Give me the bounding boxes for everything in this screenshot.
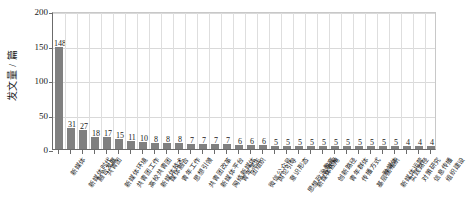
x-tick-mark: [118, 150, 119, 154]
x-gridline: [221, 13, 222, 149]
x-tick-mark: [178, 150, 179, 154]
x-tick-mark: [310, 150, 311, 154]
bar-value-label: 8: [154, 135, 158, 144]
x-gridline: [125, 13, 126, 149]
x-gridline: [89, 13, 90, 149]
y-tick-label: 150: [22, 42, 48, 52]
bar-value-label: 8: [166, 135, 170, 144]
x-gridline: [305, 13, 306, 149]
x-tick-mark: [82, 150, 83, 154]
x-tick-mark: [334, 150, 335, 154]
x-tick-mark: [346, 150, 347, 154]
x-tick-mark: [166, 150, 167, 154]
x-gridline: [413, 13, 414, 149]
x-gridline: [245, 13, 246, 149]
bar: [139, 142, 147, 149]
x-gridline: [101, 13, 102, 149]
bar-value-label: 6: [250, 137, 254, 146]
bar: [67, 128, 75, 149]
bar-value-label: 4: [406, 138, 410, 147]
bar-value-label: 4: [430, 138, 434, 147]
x-tick-mark: [418, 150, 419, 154]
x-gridline: [269, 13, 270, 149]
bar-value-label: 5: [334, 138, 338, 147]
x-gridline: [197, 13, 198, 149]
x-tick-mark: [214, 150, 215, 154]
bar-value-label: 6: [262, 137, 266, 146]
x-gridline: [233, 13, 234, 149]
x-tick-mark: [226, 150, 227, 154]
bar-value-label: 4: [418, 138, 422, 147]
x-gridline: [293, 13, 294, 149]
x-tick-mark: [58, 150, 59, 154]
bar-value-label: 5: [382, 138, 386, 147]
x-tick-mark: [262, 150, 263, 154]
bar: [79, 130, 87, 149]
x-tick-mark: [394, 150, 395, 154]
bar-value-label: 7: [214, 136, 218, 145]
x-gridline: [209, 13, 210, 149]
x-gridline: [401, 13, 402, 149]
bar-value-label: 31: [68, 120, 76, 129]
bar-value-label: 7: [226, 136, 230, 145]
bar: [127, 141, 135, 149]
bar-value-label: 11: [128, 133, 136, 142]
bar-value-label: 27: [80, 122, 88, 131]
bar-chart-figure: 发文量 / 篇 14831271817151110888777766655555…: [0, 0, 469, 215]
x-gridline: [161, 13, 162, 149]
plot-area: 1483127181715111088877776665555555555544…: [52, 12, 436, 150]
bar-value-label: 7: [190, 136, 194, 145]
bar: [91, 137, 99, 149]
x-gridline: [77, 13, 78, 149]
x-gridline: [317, 13, 318, 149]
x-tick-mark: [274, 150, 275, 154]
bar-value-label: 15: [116, 131, 124, 140]
bar-value-label: 5: [346, 138, 350, 147]
x-gridline: [173, 13, 174, 149]
x-gridline: [257, 13, 258, 149]
x-tick-mark: [382, 150, 383, 154]
x-tick-mark: [370, 150, 371, 154]
x-gridline: [341, 13, 342, 149]
bar-value-label: 5: [286, 138, 290, 147]
x-gridline: [149, 13, 150, 149]
x-gridline: [425, 13, 426, 149]
bar: [55, 47, 63, 149]
x-tick-mark: [406, 150, 407, 154]
x-tick-mark: [358, 150, 359, 154]
y-axis-title-text: 发文量 / 篇: [5, 49, 20, 100]
x-gridline: [353, 13, 354, 149]
y-tick-label: 100: [22, 76, 48, 86]
y-tick-label: 0: [22, 145, 48, 155]
x-tick-mark: [430, 150, 431, 154]
bar-value-label: 5: [310, 138, 314, 147]
x-gridline: [377, 13, 378, 149]
bar: [115, 139, 123, 149]
x-tick-mark: [154, 150, 155, 154]
bar-value-label: 5: [322, 138, 326, 147]
y-tick-label: 50: [22, 111, 48, 121]
bar-value-label: 17: [104, 129, 112, 138]
x-gridline: [365, 13, 366, 149]
x-axis-category-label: 新媒体: [70, 156, 87, 177]
y-axis-title: 发文量 / 篇: [2, 0, 22, 150]
y-tick-label: 200: [22, 7, 48, 17]
x-tick-mark: [202, 150, 203, 154]
x-gridline: [281, 13, 282, 149]
y-tick-mark: [49, 48, 53, 49]
x-gridline: [329, 13, 330, 149]
x-tick-mark: [298, 150, 299, 154]
x-gridline: [113, 13, 114, 149]
y-tick-mark: [49, 117, 53, 118]
x-gridline: [389, 13, 390, 149]
x-tick-mark: [190, 150, 191, 154]
bar-value-label: 7: [202, 136, 206, 145]
bar-value-label: 5: [358, 138, 362, 147]
x-tick-mark: [106, 150, 107, 154]
bar-value-label: 5: [370, 138, 374, 147]
y-tick-mark: [49, 13, 53, 14]
x-axis-labels-area: 新媒体新媒体时代融合发展共青团新媒体环境共青团工作高校共青团新媒体技术媒体融合青…: [52, 150, 436, 215]
x-tick-mark: [70, 150, 71, 154]
bar-value-label: 5: [274, 138, 278, 147]
bar-value-label: 18: [92, 129, 100, 138]
